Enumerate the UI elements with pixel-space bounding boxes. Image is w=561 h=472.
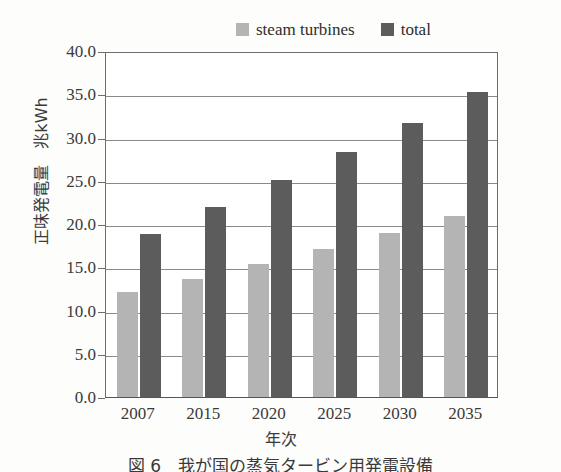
x-tick-label-2020: 2020 bbox=[234, 404, 304, 423]
y-tick-mark bbox=[98, 355, 105, 356]
x-axis-title: 年次 bbox=[0, 430, 561, 450]
gridline bbox=[106, 226, 497, 227]
legend-label-total: total bbox=[401, 21, 431, 38]
y-tick-label: 35.0 bbox=[48, 86, 96, 103]
y-axis-title: 正味発電量 兆kWh bbox=[31, 81, 53, 261]
y-tick-label-wrap: 10.0 bbox=[38, 303, 96, 320]
y-tick-label: 0.0 bbox=[48, 389, 96, 406]
y-tick-label: 15.0 bbox=[48, 259, 96, 276]
y-tick-mark bbox=[98, 52, 105, 53]
legend-item-steam-turbines: steam turbines bbox=[236, 21, 355, 38]
gridline bbox=[106, 183, 497, 184]
bar-total-2020 bbox=[271, 180, 292, 397]
y-tick-mark bbox=[98, 312, 105, 313]
bar-total-2015 bbox=[205, 207, 226, 397]
y-tick-mark bbox=[98, 95, 105, 96]
bar-steam-turbines-2035 bbox=[444, 216, 465, 397]
y-tick-label-wrap: 35.0 bbox=[38, 86, 96, 103]
plot-area bbox=[105, 52, 498, 398]
x-tick-label-2007: 2007 bbox=[103, 404, 173, 423]
bar-steam-turbines-2025 bbox=[313, 249, 334, 397]
chart-legend: steam turbines total bbox=[236, 18, 526, 40]
y-tick-label: 10.0 bbox=[48, 303, 96, 320]
x-tick-label-2025: 2025 bbox=[299, 404, 369, 423]
y-tick-label-wrap: 30.0 bbox=[38, 130, 96, 147]
y-tick-label: 25.0 bbox=[48, 173, 96, 190]
y-tick-label-wrap: 0.0 bbox=[38, 389, 96, 406]
gridline bbox=[106, 140, 497, 141]
gridline bbox=[106, 269, 497, 270]
y-tick-mark bbox=[98, 225, 105, 226]
x-tick-label-2035: 2035 bbox=[430, 404, 500, 423]
bar-steam-turbines-2015 bbox=[182, 279, 203, 397]
y-tick-mark bbox=[98, 398, 105, 399]
light-gray-swatch-icon bbox=[236, 23, 249, 36]
gridline bbox=[106, 96, 497, 97]
y-tick-label: 30.0 bbox=[48, 130, 96, 147]
y-tick-label-wrap: 40.0 bbox=[38, 43, 96, 60]
bar-total-2035 bbox=[467, 92, 488, 397]
y-tick-label-wrap: 20.0 bbox=[38, 216, 96, 233]
y-tick-mark bbox=[98, 139, 105, 140]
y-tick-mark bbox=[98, 268, 105, 269]
legend-item-total: total bbox=[381, 21, 431, 38]
bar-total-2025 bbox=[336, 152, 357, 397]
figure-caption: 図 6 我が国の蒸気タービン用発電設備 bbox=[0, 456, 561, 472]
x-tick-label-2015: 2015 bbox=[168, 404, 238, 423]
bar-steam-turbines-2007 bbox=[117, 292, 138, 397]
y-tick-label: 40.0 bbox=[48, 43, 96, 60]
y-tick-label: 20.0 bbox=[48, 216, 96, 233]
x-tick-label-2030: 2030 bbox=[365, 404, 435, 423]
dark-gray-swatch-icon bbox=[381, 23, 394, 36]
gridline bbox=[106, 313, 497, 314]
gridline bbox=[106, 356, 497, 357]
legend-label-steam-turbines: steam turbines bbox=[256, 21, 355, 38]
bar-chart-figure: steam turbines total 正味発電量 兆kWh 0.05.010… bbox=[0, 0, 561, 472]
bar-steam-turbines-2020 bbox=[248, 264, 269, 397]
bar-total-2030 bbox=[402, 123, 423, 397]
y-tick-label: 5.0 bbox=[48, 346, 96, 363]
y-tick-label-wrap: 15.0 bbox=[38, 259, 96, 276]
y-tick-label-wrap: 25.0 bbox=[38, 173, 96, 190]
bar-total-2007 bbox=[140, 234, 161, 397]
bar-steam-turbines-2030 bbox=[379, 233, 400, 397]
y-tick-label-wrap: 5.0 bbox=[38, 346, 96, 363]
y-tick-mark bbox=[98, 182, 105, 183]
